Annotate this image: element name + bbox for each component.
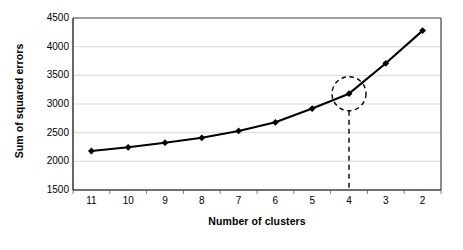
x-axis-tick-label: 4	[334, 195, 364, 206]
x-axis-tick-label: 8	[187, 195, 217, 206]
x-axis-tick-label: 7	[224, 195, 254, 206]
chart-figure: Sum of squared errors Number of clusters…	[0, 0, 463, 250]
x-axis-tick-label: 3	[371, 195, 401, 206]
plot-area	[0, 0, 463, 250]
x-axis-tick-label: 11	[76, 195, 106, 206]
x-axis-tick-label: 5	[297, 195, 327, 206]
x-axis-tick-label: 10	[113, 195, 143, 206]
x-axis-tick-label: 6	[260, 195, 290, 206]
x-axis-tick-label: 9	[150, 195, 180, 206]
x-axis-tick-label: 2	[408, 195, 438, 206]
